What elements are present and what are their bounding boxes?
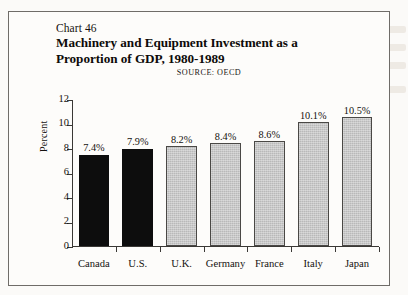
y-axis-title: Percent [38,121,49,152]
x-label-u-s: U.S. [128,258,147,269]
bar-u-s[interactable]: 7.9% [122,149,153,246]
bar-value-label: 7.4% [83,142,104,153]
y-tick-label: 8 [64,142,69,153]
x-tick-mark [379,247,380,252]
x-tick-mark [291,247,292,252]
chart-frame: Chart 46 Machinery and Equipment Investm… [8,11,390,286]
x-tick-mark [116,247,117,252]
chart-header: Chart 46 Machinery and Equipment Investm… [56,21,376,77]
bar-value-label: 8.4% [215,131,236,142]
chart-title-line-2: Proportion of GDP, 1980-1989 [56,51,376,67]
bar-value-label: 8.6% [259,129,280,140]
y-tick-label: 4 [64,191,69,202]
x-label-germany: Germany [206,258,245,269]
chart-number: Chart 46 [56,21,376,35]
y-tick-label: 12 [59,93,70,104]
x-label-canada: Canada [78,258,110,269]
y-axis-line [72,100,73,248]
x-tick-mark [204,247,205,252]
chart-title-line-1: Machinery and Equipment Investment as a [56,35,376,51]
bar-value-label: 7.9% [127,136,148,147]
y-tick-label: 2 [64,215,69,226]
bar-germany[interactable]: 8.4% [210,143,241,246]
bar-value-label: 10.5% [344,105,371,116]
bar-italy[interactable]: 10.1% [298,122,329,246]
bar-u-k[interactable]: 8.2% [166,146,197,246]
x-label-japan: Japan [345,258,369,269]
y-tick-label: 6 [64,166,69,177]
x-axis-line [72,246,379,247]
bar-canada[interactable]: 7.4% [79,155,110,246]
x-tick-mark [247,247,248,252]
chart-source: SOURCE: OECD [56,68,376,77]
y-tick-label: 10 [59,117,70,128]
page-canvas: Chart 46 Machinery and Equipment Investm… [0,0,408,295]
x-label-u-k: U.K. [171,258,192,269]
x-tick-mark [335,247,336,252]
bar-japan[interactable]: 10.5% [342,117,373,246]
bar-value-label: 10.1% [300,110,327,121]
bar-france[interactable]: 8.6% [254,141,285,246]
x-label-italy: Italy [303,258,322,269]
x-tick-mark [160,247,161,252]
y-tick-label: 0 [64,240,69,251]
x-label-france: France [255,258,284,269]
plot-area: Percent 024681012 7.4%7.9%8.2%8.4%8.6%10… [72,100,379,247]
bar-value-label: 8.2% [171,134,192,145]
